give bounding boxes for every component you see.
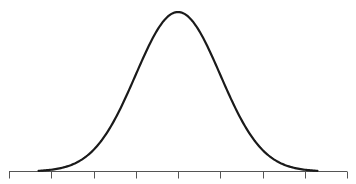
x-axis bbox=[9, 172, 348, 179]
normal-distribution-chart bbox=[0, 0, 356, 184]
bell-curve bbox=[39, 12, 318, 171]
